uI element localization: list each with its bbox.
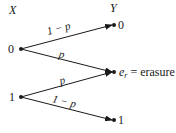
input-header-x: X	[8, 3, 17, 17]
output-header-y: Y	[110, 1, 118, 15]
edge-label-1-1: 1 − p	[51, 92, 78, 110]
output-node-0	[112, 23, 116, 27]
edge-0-to-erasure	[21, 49, 112, 72]
output-label-1: 1	[118, 113, 124, 127]
edge-label-0-e: p	[57, 47, 67, 60]
input-node-0	[19, 47, 23, 51]
edge-1-to-erasure	[21, 72, 112, 97]
edge-label-0-0: 1 − p	[45, 19, 72, 37]
erasure-text: = erasure	[130, 65, 174, 79]
erasure-subscript: r	[124, 71, 128, 80]
edge-label-1-e: p	[57, 73, 67, 86]
input-node-1	[19, 95, 23, 99]
output-node-1	[112, 118, 116, 122]
input-label-0: 0	[8, 42, 14, 56]
output-label-erasure: er= erasure	[119, 65, 175, 80]
output-node-erasure	[112, 70, 116, 74]
output-label-0: 0	[118, 18, 124, 32]
erasure-channel-diagram: X Y 0 1 0 1 er= erasure 1 − p p p 1 − p	[0, 0, 176, 133]
input-label-1: 1	[9, 90, 15, 104]
